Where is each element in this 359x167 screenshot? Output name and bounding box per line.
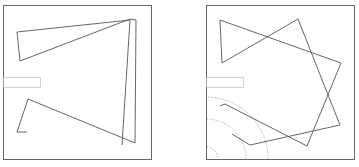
right-panel [144, 6, 355, 167]
left-panel [4, 6, 152, 160]
entrance-box [4, 78, 41, 88]
trajectory-diagram [0, 0, 359, 166]
entrance-box [207, 78, 244, 88]
